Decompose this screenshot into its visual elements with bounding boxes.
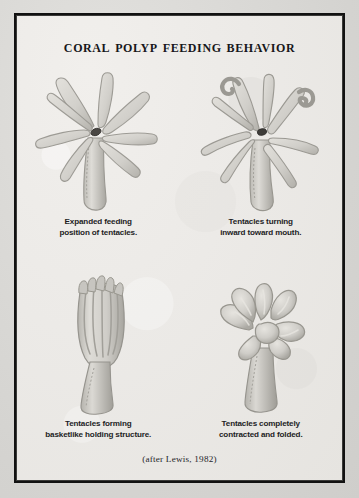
- figure-caption: Tentacles forming basketlike holding str…: [21, 418, 176, 441]
- caption-line-2: position of tentacles.: [21, 227, 176, 238]
- caption-line-1: Expanded feeding: [65, 217, 132, 226]
- page-title: Coral Polyp Feeding Behavior: [17, 36, 342, 57]
- caption-line-1: Tentacles completely: [222, 419, 300, 428]
- figure-row-top: Expanded feeding position of tentacles.: [17, 64, 342, 254]
- figure-polyp-turning-inward: Tentacles turning inward toward mouth.: [180, 64, 343, 254]
- figure-caption: Tentacles completely contracted and fold…: [184, 418, 339, 441]
- caption-line-2: contracted and folded.: [184, 429, 339, 440]
- polyp-contracted-illustration: [180, 266, 343, 416]
- figure-polyp-expanded: Expanded feeding position of tentacles.: [17, 64, 180, 254]
- caption-line-1: Tentacles turning: [229, 217, 293, 226]
- figure-caption: Expanded feeding position of tentacles.: [21, 216, 176, 239]
- polyp-turning-inward-illustration: [180, 64, 343, 214]
- figure-caption: Tentacles turning inward toward mouth.: [184, 216, 339, 239]
- figure-row-bottom: Tentacles forming basketlike holding str…: [17, 266, 342, 461]
- plate-inner-surface: Coral Polyp Feeding Behavior: [17, 16, 342, 480]
- plate-frame: Coral Polyp Feeding Behavior: [14, 13, 345, 483]
- caption-line-2: basketlike holding structure.: [21, 429, 176, 440]
- attribution-line: (after Lewis, 1982): [17, 454, 342, 464]
- polyp-expanded-illustration: [17, 64, 180, 214]
- figure-polyp-contracted: Tentacles completely contracted and fold…: [180, 266, 343, 461]
- caption-line-1: Tentacles forming: [65, 419, 132, 428]
- figure-polyp-basket: Tentacles forming basketlike holding str…: [17, 266, 180, 461]
- caption-line-2: inward toward mouth.: [184, 227, 339, 238]
- polyp-basket-illustration: [17, 266, 180, 416]
- plate-background: Coral Polyp Feeding Behavior: [0, 0, 359, 498]
